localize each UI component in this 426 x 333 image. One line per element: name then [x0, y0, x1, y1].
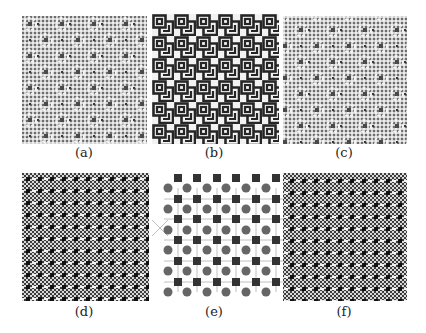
- checkerboard-pattern-image: [283, 173, 407, 301]
- panel-f: [283, 173, 407, 301]
- lattice-diagram: [150, 170, 288, 302]
- panel-f-label: (f): [324, 304, 364, 319]
- panel-a: [22, 16, 147, 144]
- maze-pattern-image: [152, 14, 279, 144]
- panel-a-label: (a): [64, 145, 104, 160]
- dot-grid-pattern-image: [22, 16, 147, 144]
- panel-e-label: (e): [194, 304, 234, 319]
- panel-c: [283, 16, 407, 144]
- panel-b: [152, 14, 279, 144]
- panel-d: [22, 173, 149, 301]
- panel-e: [150, 170, 288, 302]
- panel-b-label: (b): [194, 145, 234, 160]
- checkerboard-pattern-image: [22, 173, 149, 301]
- dot-grid-pattern-image: [283, 16, 407, 144]
- panel-d-label: (d): [64, 304, 104, 319]
- panel-c-label: (c): [324, 145, 364, 160]
